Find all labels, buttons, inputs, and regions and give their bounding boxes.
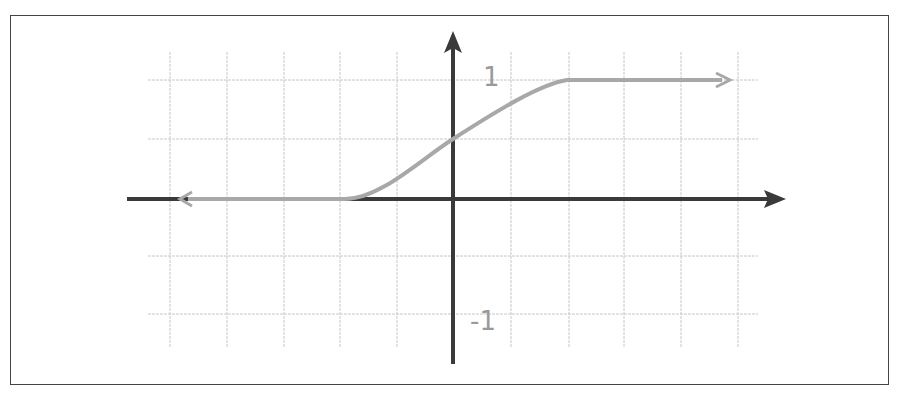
y-tick-label-neg1: -1 bbox=[470, 306, 496, 336]
plot-area bbox=[0, 0, 902, 395]
y-tick-label-1: 1 bbox=[483, 62, 500, 92]
